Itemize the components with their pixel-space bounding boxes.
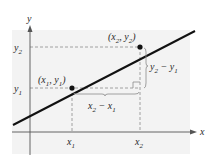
plot-panel — [12, 30, 190, 154]
point-2 — [137, 44, 142, 49]
slope-diagram: y x y2 y1 x1 x2 (x1, y1) (x2, y2) y2 − y… — [0, 0, 210, 160]
point-1 — [69, 85, 74, 90]
y-axis-arrow-icon — [28, 25, 33, 32]
y-axis-label: y — [26, 13, 32, 24]
x-axis-arrow-icon — [190, 130, 197, 135]
x-axis-label: x — [199, 126, 205, 137]
